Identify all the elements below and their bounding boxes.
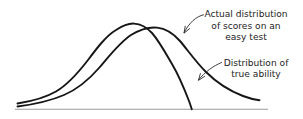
true-ability-label-line-2: true ability bbox=[231, 69, 281, 79]
figure-canvas: Actual distribution of scores on an easy… bbox=[0, 0, 303, 119]
leader-line-actual bbox=[184, 15, 203, 33]
actual-label-line-1: Actual distribution bbox=[204, 9, 287, 19]
true-ability-label-line-1: Distribution of bbox=[224, 58, 290, 68]
leader-line-true-ability bbox=[199, 63, 222, 80]
actual-label-line-2: of scores on an bbox=[211, 21, 280, 31]
distribution-comparison-figure: Actual distribution of scores on an easy… bbox=[0, 0, 303, 119]
curve-true-ability bbox=[18, 24, 192, 110]
actual-label-line-3: easy test bbox=[225, 32, 267, 42]
